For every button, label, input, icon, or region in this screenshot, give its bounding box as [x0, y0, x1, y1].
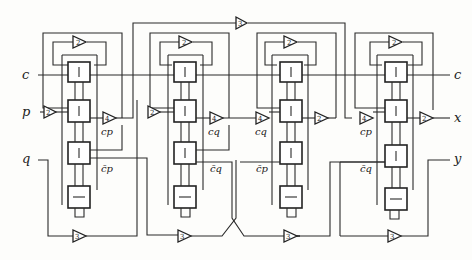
amp-gain-label: 3 — [180, 233, 184, 241]
signal-cbarp-label-3: c̄p — [256, 163, 269, 174]
signal-cbarq-label-4: c̄q — [360, 163, 372, 174]
amplifier-top-bus: 3 — [236, 17, 247, 29]
signal-cbarq-label: c̄q — [210, 163, 222, 174]
amp-gain-label: 2 — [287, 39, 291, 47]
amp-gain-label: 2 — [422, 115, 426, 123]
top-bus: 3 — [123, 17, 352, 118]
output-y-label: y — [453, 151, 462, 166]
input-p-label: p — [22, 104, 31, 119]
amp-gain-label: 4 — [212, 115, 217, 123]
amp-gain-label: 2 — [317, 115, 321, 123]
signal-cp-label-4: cp — [360, 126, 373, 137]
amp-gain-label: 2 — [76, 39, 80, 47]
amp-gain-label: 3 — [238, 20, 242, 28]
amp-gain-label: 3 — [75, 233, 79, 241]
amp-gain-label: 3 — [286, 233, 290, 241]
amp-gain-label: 2 — [182, 39, 186, 47]
input-q-label: q — [22, 151, 30, 166]
output-x-label: x — [454, 110, 462, 125]
output-c-label: c — [454, 67, 462, 82]
signal-cq-label: cq — [208, 126, 220, 137]
amp-gain-label: 2 — [46, 109, 50, 117]
input-c-label: c — [22, 67, 30, 82]
cell-3: 2 4 2 3 — [240, 33, 390, 242]
cell-1: 2 2 4 3 — [38, 33, 178, 242]
amp-gain-label: 4 — [362, 115, 367, 123]
amp-gain-label: 2 — [150, 109, 154, 117]
systolic-array-diagram: 3 2 2 4 — [0, 0, 472, 260]
diagram-svg: 3 2 2 4 — [0, 0, 472, 260]
signal-cq-label-3: cq — [255, 126, 267, 137]
amp-gain-label: 4 — [105, 115, 110, 123]
amp-gain-label: 2 — [392, 39, 396, 47]
cell-4: 2 4 2 3 — [340, 33, 450, 242]
signal-cbarp-label: c̄p — [101, 163, 114, 174]
cell-2: 2 2 4 3 — [148, 33, 300, 242]
amp-gain-label: 3 — [390, 233, 394, 241]
amp-gain-label: 4 — [258, 115, 263, 123]
signal-cp-label: cp — [101, 126, 114, 137]
